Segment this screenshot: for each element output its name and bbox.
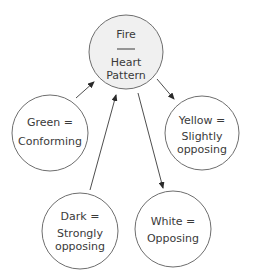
fire-subtitle-line1: Heart — [111, 56, 142, 69]
white-label-line2: Opposing — [147, 232, 199, 245]
fire-subtitle-line2: Pattern — [106, 69, 146, 82]
node-yellow-slightly-opposing: Yellow = Slightly opposing — [165, 96, 239, 170]
node-dark-strongly-opposing: Dark = Strongly opposing — [42, 193, 118, 269]
fire-heart-pattern-diagram: Fire Heart Pattern Green = Conforming Ye… — [0, 0, 255, 280]
figure-caption-cropped — [6, 276, 246, 280]
white-label-line1: White = — [151, 215, 196, 228]
green-label-line1: Green = — [27, 116, 73, 129]
yellow-label-line2: Slightly — [182, 130, 223, 143]
yellow-label-line1: Yellow = — [178, 114, 226, 127]
arrow-green-to-fire — [76, 82, 94, 98]
node-fire-heart-pattern: Fire Heart Pattern — [89, 15, 163, 89]
green-circle — [12, 95, 88, 171]
dark-label-line2: Strongly — [57, 227, 103, 240]
arrow-fire-to-white — [138, 93, 163, 188]
fire-title: Fire — [116, 28, 136, 41]
arrow-fire-to-yellow — [157, 79, 174, 99]
white-circle — [135, 191, 211, 267]
green-label-line2: Conforming — [18, 135, 82, 148]
edges-group — [76, 79, 174, 190]
dark-label-line3: opposing — [55, 240, 105, 253]
node-white-opposing: White = Opposing — [135, 191, 211, 267]
arrow-dark-to-fire — [90, 95, 116, 190]
dark-label-line1: Dark = — [61, 210, 100, 223]
node-green-conforming: Green = Conforming — [12, 95, 88, 171]
yellow-label-line3: opposing — [177, 143, 227, 156]
